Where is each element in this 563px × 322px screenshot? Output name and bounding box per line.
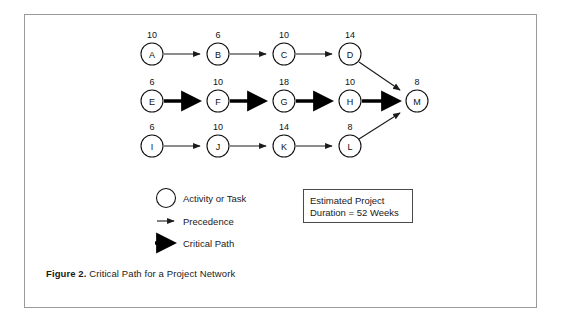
figure-caption-label: Figure 2.: [46, 268, 87, 279]
figure-caption: Figure 2. Critical Path for a Project Ne…: [46, 268, 235, 279]
legend-label-critical-path: Critical Path: [183, 238, 234, 249]
figure-caption-text: Critical Path for a Project Network: [87, 268, 236, 279]
estimate-line-1: Estimated Project: [310, 195, 384, 206]
figure-frame: [24, 14, 537, 308]
legend-label-activity-or-task: Activity or Task: [183, 193, 246, 204]
estimated-duration-box: Estimated Project Duration = 52 Weeks: [303, 189, 413, 223]
legend-label-precedence: Precedence: [183, 216, 234, 227]
estimate-line-2: Duration = 52 Weeks: [310, 207, 399, 218]
